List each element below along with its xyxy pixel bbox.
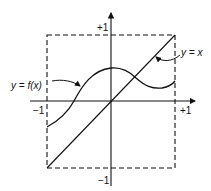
y-axis-pos-one-label: +1 [97,22,109,33]
fixed-point-diagram: y = f(x) y = x −1 +1 +1 −1 [0,0,211,191]
curve-label: y = f(x) [10,80,42,91]
curve-label-leader-arrow [52,80,80,86]
diagonal-label-leader-arrow [156,55,180,61]
y-axis-neg-one-label: −1 [98,175,110,186]
x-axis-pos-one-label: +1 [180,105,192,116]
x-axis-neg-one-label: −1 [33,105,45,116]
diagonal-label: y = x [180,47,203,58]
